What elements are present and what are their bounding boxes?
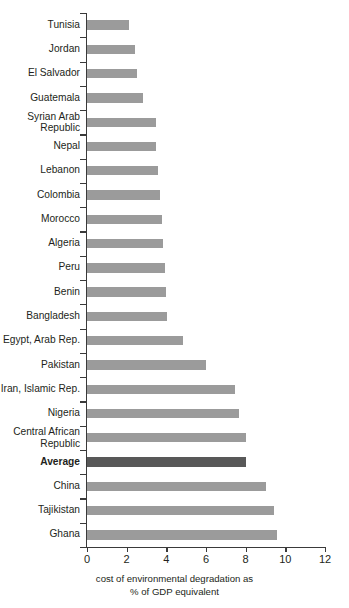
bar [87,45,135,54]
y-axis-tick [80,37,87,38]
bar-row: Guatemala [0,86,349,111]
y-axis-tick [80,547,87,548]
bar [87,433,246,442]
bar-label: Iran, Islamic Rep. [0,383,80,395]
bar-row: Nepal [0,134,349,159]
x-axis-tick [285,547,286,552]
x-axis-tick [325,547,326,552]
y-axis-tick [80,256,87,257]
bar-label: Pakistan [0,359,80,371]
y-axis-tick [80,329,87,330]
bar-row: Central African Republic [0,426,349,451]
bar-label: Algeria [0,237,80,249]
bar-label: Benin [0,286,80,298]
y-axis-tick [80,280,87,281]
bar [87,215,162,224]
bar [87,263,165,272]
bar-row: Pakistan [0,353,349,378]
y-axis-tick [80,426,87,427]
bar [87,166,158,175]
bar-row: Nigeria [0,401,349,426]
y-axis-tick [80,13,87,14]
bar-label: El Salvador [0,67,80,79]
bar [87,482,266,491]
y-axis-tick [80,498,87,499]
bar-row: Ghana [0,523,349,548]
bar-label: Nigeria [0,407,80,419]
x-axis-tick-label: 6 [191,553,221,565]
bar-label: Ghana [0,528,80,540]
bar-label: Jordan [0,43,80,55]
bar-row: Lebanon [0,159,349,184]
bar-label: Bangladesh [0,310,80,322]
y-axis-tick [80,523,87,524]
x-axis-tick-label: 4 [151,553,181,565]
x-axis-tick-label: 12 [310,553,340,565]
bar-row: Morocco [0,207,349,232]
x-axis-tick [206,547,207,552]
bar-row: Bangladesh [0,304,349,329]
bar-row: Jordan [0,37,349,62]
bar-label: China [0,480,80,492]
bar [87,20,129,29]
y-axis-tick [80,450,87,451]
bar [87,69,137,78]
bar-label: Syrian Arab Republic [0,111,80,134]
bar-row: Iran, Islamic Rep. [0,377,349,402]
bar-label: Tunisia [0,19,80,31]
bar-label: Tajikistan [0,504,80,516]
bar-row: Colombia [0,183,349,208]
bar-row: Algeria [0,231,349,256]
bar-row: Tajikistan [0,498,349,523]
y-axis-tick [80,231,87,232]
bar [87,360,206,369]
bar [87,530,277,539]
x-axis-tick-label: 10 [270,553,300,565]
bar-label: Morocco [0,213,80,225]
bar-row: El Salvador [0,62,349,87]
x-axis-label: cost of environmental degradation as % o… [0,572,349,598]
bar [87,409,239,418]
bar [87,385,235,394]
x-axis-tick [166,547,167,552]
bar [87,142,156,151]
x-axis-tick [87,547,88,552]
plot-area: TunisiaJordanEl SalvadorGuatemalaSyrian … [0,0,349,560]
bar [87,93,143,102]
y-axis-tick [80,110,87,111]
y-axis-tick [80,353,87,354]
bar-row: Benin [0,280,349,305]
x-axis-tick-label: 8 [231,553,261,565]
bar-row: Average [0,450,349,475]
bar [87,336,183,345]
bar-row: Syrian Arab Republic [0,110,349,135]
bar [87,287,166,296]
bar-label: Nepal [0,140,80,152]
x-axis-tick-label: 2 [112,553,142,565]
y-axis-tick [80,183,87,184]
y-axis-tick [80,401,87,402]
x-axis-tick [246,547,247,552]
y-axis-tick [80,62,87,63]
bar-label: Average [0,456,80,468]
y-axis-tick [80,474,87,475]
bar-label: Central African Republic [0,426,80,449]
bar-row: Tunisia [0,13,349,38]
bar-label: Peru [0,261,80,273]
y-axis-tick [80,377,87,378]
bar-row: China [0,474,349,499]
bar-row: Peru [0,256,349,281]
y-axis-tick [80,304,87,305]
bar [87,190,160,199]
bar [87,239,163,248]
bar-label: Egypt, Arab Rep. [0,334,80,346]
y-axis-tick [80,134,87,135]
y-axis-tick [80,207,87,208]
x-axis-label-line-2: % of GDP equivalent [0,585,349,598]
bar-row: Egypt, Arab Rep. [0,329,349,354]
bar-label: Colombia [0,189,80,201]
y-axis-tick [80,159,87,160]
bar [87,118,156,127]
bar-chart: TunisiaJordanEl SalvadorGuatemalaSyrian … [0,0,349,608]
bar-average [87,457,246,466]
